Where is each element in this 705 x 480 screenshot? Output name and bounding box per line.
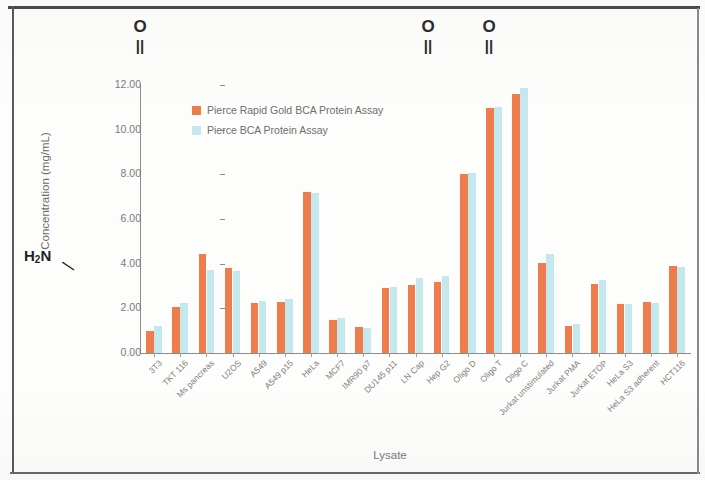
y-tick-label: 4.00 xyxy=(97,257,141,269)
x-tick-label-text: LN Cap xyxy=(398,358,425,385)
x-tick-mark xyxy=(546,353,547,357)
y-axis-title: Concentration (mg/mL) xyxy=(39,101,51,281)
x-tick-label-text: MCF7 xyxy=(324,358,347,381)
bar-standard xyxy=(494,107,502,353)
x-axis-title: Lysate xyxy=(330,449,450,461)
x-tick-label-text: HeLa xyxy=(300,358,321,379)
carbonyl-oxygen-label: O xyxy=(418,18,438,35)
legend-label: Pierce Rapid Gold BCA Protein Assay xyxy=(207,104,383,116)
carbonyl-oxygen-label: O xyxy=(479,18,499,35)
x-tick-mark xyxy=(363,353,364,357)
bar-rapid-gold xyxy=(512,94,520,353)
y-tick-label: 8.00 xyxy=(97,167,141,179)
bar-group xyxy=(146,85,162,353)
legend-label: Pierce BCA Protein Assay xyxy=(207,124,328,136)
bar-standard xyxy=(363,328,371,353)
bar-standard xyxy=(520,88,528,353)
legend-swatch-icon xyxy=(192,126,201,135)
x-tick-mark xyxy=(494,353,495,357)
bar-group xyxy=(434,85,450,353)
bar-standard xyxy=(154,326,162,353)
x-tick-mark xyxy=(468,353,469,357)
x-tick-mark xyxy=(206,353,207,357)
bar-rapid-gold xyxy=(146,331,154,353)
bar-group xyxy=(669,85,685,353)
x-tick-mark xyxy=(442,353,443,357)
y-axis-ticks: 0.002.004.006.008.0010.0012.00 xyxy=(84,0,141,480)
x-tick-label-text: Oligo T xyxy=(478,358,504,384)
x-tick-label-text: U2OS xyxy=(219,358,242,381)
amine-bond-line xyxy=(62,262,75,271)
x-tick-mark xyxy=(259,353,260,357)
x-tick-mark xyxy=(285,353,286,357)
y-tick-label: 12.00 xyxy=(97,78,141,90)
bar-group xyxy=(486,85,502,353)
scanned-page: O||O||O|| H2N 0.002.004.006.008.0010.001… xyxy=(0,0,705,480)
bar-standard xyxy=(259,301,267,353)
x-tick-mark xyxy=(337,353,338,357)
bar-rapid-gold xyxy=(486,108,494,353)
carbonyl-double-bond-icon: || xyxy=(418,38,438,53)
page-border-right xyxy=(697,8,699,474)
x-tick-mark xyxy=(520,353,521,357)
x-tick-label-text: 3T3 xyxy=(147,358,164,375)
x-tick-mark xyxy=(677,353,678,357)
bar-rapid-gold xyxy=(172,307,180,353)
legend-item: Pierce BCA Protein Assay xyxy=(192,124,383,136)
bar-group xyxy=(538,85,554,353)
bar-rapid-gold xyxy=(303,192,311,353)
bar-group xyxy=(382,85,398,353)
bar-standard xyxy=(337,318,345,353)
x-tick-mark xyxy=(311,353,312,357)
bar-standard xyxy=(180,303,188,353)
bar-group xyxy=(643,85,659,353)
legend-item: Pierce Rapid Gold BCA Protein Assay xyxy=(192,104,383,116)
x-tick-mark xyxy=(389,353,390,357)
x-tick-mark xyxy=(416,353,417,357)
carbonyl-double-bond-icon: || xyxy=(479,38,499,53)
y-tick-label: 0.00 xyxy=(97,346,141,358)
x-tick-mark xyxy=(651,353,652,357)
x-tick-label-text: A549 xyxy=(248,358,269,379)
x-tick-mark xyxy=(572,353,573,357)
bar-group xyxy=(565,85,581,353)
x-tick-mark xyxy=(233,353,234,357)
bar-standard xyxy=(546,254,554,353)
y-tick-label: 6.00 xyxy=(97,212,141,224)
y-tick-label: 10.00 xyxy=(97,123,141,135)
x-tick-mark xyxy=(599,353,600,357)
bar-group xyxy=(617,85,633,353)
bar-group xyxy=(408,85,424,353)
page-border-left xyxy=(12,6,14,474)
bar-rapid-gold xyxy=(460,174,468,353)
chart-legend: Pierce Rapid Gold BCA Protein AssayPierc… xyxy=(192,104,383,144)
x-tick-mark xyxy=(154,353,155,357)
x-tick-mark xyxy=(625,353,626,357)
bar-standard xyxy=(311,193,319,353)
y-tick-label: 2.00 xyxy=(97,301,141,313)
bar-group xyxy=(460,85,476,353)
bar-standard xyxy=(468,173,476,353)
legend-swatch-icon xyxy=(192,106,201,115)
x-tick-mark xyxy=(180,353,181,357)
bar-group xyxy=(512,85,528,353)
bar-group xyxy=(172,85,188,353)
bar-standard xyxy=(285,299,293,353)
